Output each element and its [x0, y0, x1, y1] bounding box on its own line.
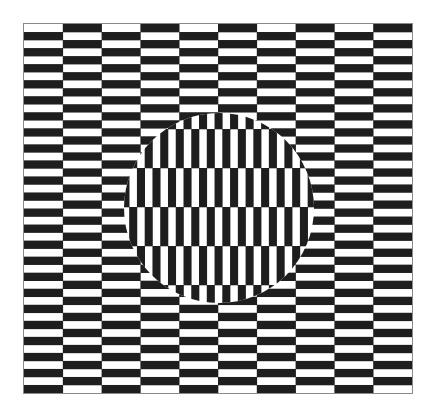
ouchi-illusion-graphic	[0, 0, 435, 411]
